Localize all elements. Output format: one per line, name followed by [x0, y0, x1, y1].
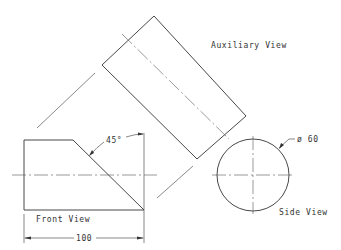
projection-line-lower [157, 166, 193, 198]
length-dimension-value: 100 [76, 234, 92, 243]
side-view-label: Side View [279, 208, 328, 217]
projection-line-upper [37, 73, 95, 128]
length-dimension: 100 [24, 234, 144, 243]
arrowhead-right [137, 237, 144, 240]
side-view: Side View ø 60 [212, 135, 328, 217]
front-view-label: Front View [36, 215, 90, 224]
angle-dimension: 45° [89, 133, 144, 157]
auxiliary-view-outline [102, 16, 246, 159]
auxiliary-view-label: Auxiliary View [211, 41, 287, 50]
auxiliary-view: Auxiliary View [102, 16, 287, 159]
angle-dimension-value: 45° [106, 136, 122, 145]
angle-arrowhead-right [138, 133, 144, 136]
front-view: Front View 100 45° [12, 133, 157, 244]
technical-drawing: Auxiliary View Front View 100 45° [0, 0, 341, 250]
diameter-dimension: ø 60 [279, 135, 319, 149]
arrowhead-left [24, 237, 31, 240]
angle-arrowhead-left [89, 150, 94, 156]
diameter-dimension-value: ø 60 [297, 135, 319, 144]
